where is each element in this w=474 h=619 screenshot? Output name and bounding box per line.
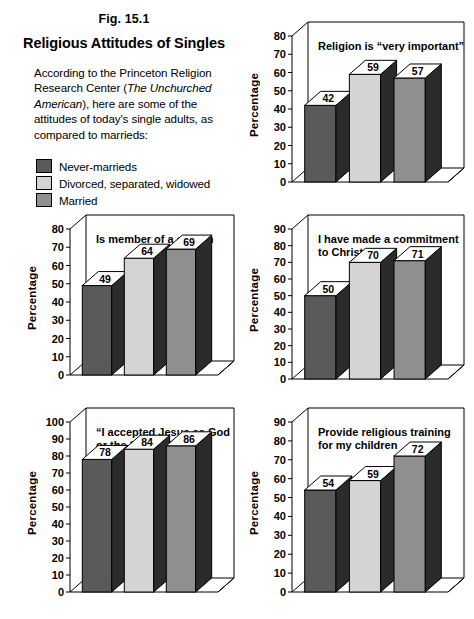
y-axis-tick-label: 80 (52, 450, 64, 462)
legend-label-never-marrieds: Never-marrieds (59, 160, 137, 173)
y-axis-tick-label: 100 (46, 416, 64, 428)
bar-2: 72 (394, 442, 441, 592)
y-axis-tick-label: 70 (274, 48, 286, 60)
plot-area: 01020304050607080Is member of a church49… (40, 205, 238, 391)
y-axis-tick-label: 40 (274, 306, 286, 318)
y-axis-tick-label: 20 (52, 552, 64, 564)
bar-2: 71 (394, 247, 441, 379)
bar-0: 42 (305, 91, 352, 182)
y-axis-tick-label: 30 (274, 529, 286, 541)
y-axis-tick-label: 50 (274, 290, 286, 302)
chart-panel-accepted-jesus: Percentage0102030405060708090100“I accep… (24, 398, 238, 608)
y-axis-tick-label: 90 (274, 223, 286, 235)
y-axis-tick-label: 10 (52, 351, 64, 363)
y-axis-tick-label: 70 (52, 467, 64, 479)
y-axis-tick-label: 20 (274, 548, 286, 560)
y-axis-tick-label: 50 (274, 492, 286, 504)
y-axis-tick-label: 0 (58, 586, 64, 598)
y-axis-tick-label: 20 (52, 333, 64, 345)
y-axis-tick-label: 30 (274, 121, 286, 133)
bar-2: 69 (166, 235, 211, 375)
y-axis-tick-label: 0 (280, 176, 286, 188)
y-axis-title: Percentage (246, 205, 262, 395)
legend: Never-marrieds Divorced, separated, wido… (36, 159, 230, 207)
y-axis-title: Percentage (246, 12, 262, 198)
bar-value-label: 70 (367, 249, 379, 261)
figure-number: Fig. 15.1 (18, 12, 230, 26)
legend-item-divorced: Divorced, separated, widowed (36, 176, 230, 190)
y-axis-tick-label: 0 (58, 369, 64, 381)
bar-value-label: 86 (183, 433, 195, 445)
y-axis-tick-label: 60 (274, 473, 286, 485)
chart-panel-member-of-church: Percentage01020304050607080Is member of … (24, 205, 238, 391)
bar-2: 57 (394, 64, 441, 182)
y-axis-tick-label: 40 (274, 510, 286, 522)
y-axis-tick-label: 0 (280, 586, 286, 598)
bar-1: 59 (349, 467, 396, 592)
y-axis-tick-label: 90 (52, 433, 64, 445)
bar-value-label: 84 (141, 436, 153, 448)
bar-0: 50 (305, 282, 352, 379)
y-axis-tick-label: 50 (274, 85, 286, 97)
bar-value-label: 69 (183, 236, 195, 248)
bar-0: 78 (82, 445, 127, 592)
y-axis-title: Percentage (246, 398, 262, 608)
y-axis-tick-label: 10 (274, 567, 286, 579)
figure-intro: Fig. 15.1 Religious Attitudes of Singles… (18, 8, 230, 210)
y-axis-tick-label: 80 (52, 223, 64, 235)
bar-1: 84 (124, 435, 169, 592)
y-axis-title: Percentage (24, 205, 40, 391)
bar-value-label: 59 (367, 468, 379, 480)
legend-swatch-never-marrieds (36, 159, 52, 173)
bar-value-label: 50 (322, 283, 334, 295)
bar-value-label: 78 (99, 446, 111, 458)
bar-value-label: 54 (322, 477, 334, 489)
y-axis-tick-label: 50 (52, 501, 64, 513)
bar-value-label: 64 (141, 245, 153, 257)
chart-panel-religious-training: Percentage0102030405060708090Provide rel… (246, 398, 468, 608)
figure-description: According to the Princeton Religion Rese… (34, 65, 224, 142)
y-axis-tick-label: 30 (274, 323, 286, 335)
legend-item-never-marrieds: Never-marrieds (36, 159, 230, 173)
y-axis-tick-label: 20 (274, 140, 286, 152)
legend-swatch-divorced (36, 176, 52, 190)
y-axis-tick-label: 30 (52, 314, 64, 326)
bar-1: 59 (349, 60, 396, 182)
y-axis-tick-label: 60 (274, 273, 286, 285)
y-axis-tick-label: 60 (52, 260, 64, 272)
y-axis-tick-label: 70 (274, 256, 286, 268)
y-axis-tick-label: 20 (274, 340, 286, 352)
plot-area: 01020304050607080Religion is “very impor… (262, 12, 468, 198)
y-axis-tick-label: 60 (52, 484, 64, 496)
y-axis-tick-label: 40 (52, 518, 64, 530)
bar-0: 54 (305, 476, 352, 592)
y-axis-tick-label: 70 (274, 454, 286, 466)
bar-1: 64 (124, 244, 169, 375)
plot-area: 0102030405060708090I have made a commitm… (262, 205, 468, 395)
y-axis-tick-label: 10 (274, 158, 286, 170)
chart-panel-commitment-to-christ: Percentage0102030405060708090I have made… (246, 205, 468, 395)
y-axis-tick-label: 80 (274, 435, 286, 447)
y-axis-tick-label: 70 (52, 241, 64, 253)
plot-area: 0102030405060708090Provide religious tra… (262, 398, 468, 608)
y-axis-tick-label: 80 (274, 30, 286, 42)
y-axis-tick-label: 40 (274, 103, 286, 115)
chart-title: for my children (318, 439, 398, 451)
chart-title: Religion is “very important” (318, 40, 464, 52)
figure-page: Fig. 15.1 Religious Attitudes of Singles… (0, 0, 474, 619)
bar-value-label: 42 (322, 92, 334, 104)
y-axis-tick-label: 90 (274, 416, 286, 428)
bar-1: 70 (349, 248, 396, 379)
chart-panel-religion-very-important: Percentage01020304050607080Religion is “… (246, 12, 468, 198)
y-axis-title: Percentage (24, 398, 40, 608)
chart-title: Provide religious training (318, 426, 451, 438)
bar-value-label: 57 (412, 65, 424, 77)
bar-value-label: 72 (412, 443, 424, 455)
bar-value-label: 49 (99, 273, 111, 285)
y-axis-tick-label: 10 (52, 569, 64, 581)
y-axis-tick-label: 10 (274, 356, 286, 368)
figure-title: Religious Attitudes of Singles (18, 35, 230, 51)
legend-label-divorced: Divorced, separated, widowed (59, 177, 210, 190)
chart-title: I have made a commitment (318, 233, 459, 245)
bar-value-label: 71 (412, 248, 424, 260)
